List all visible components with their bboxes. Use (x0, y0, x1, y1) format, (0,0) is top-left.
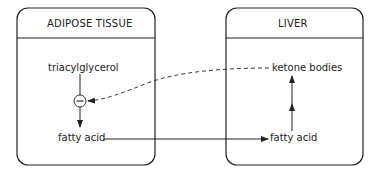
adipose-tissue-title: ADIPOSE TISSUE (47, 18, 132, 29)
liver-title: LIVER (278, 18, 308, 29)
triacylglycerol-label: triacylglycerol (48, 62, 119, 73)
fatty-acid-liver-label: fatty acid (270, 132, 317, 143)
ketone-bodies-label: ketone bodies (272, 62, 342, 73)
fatty-acid-adipose-label: fatty acid (58, 132, 105, 143)
